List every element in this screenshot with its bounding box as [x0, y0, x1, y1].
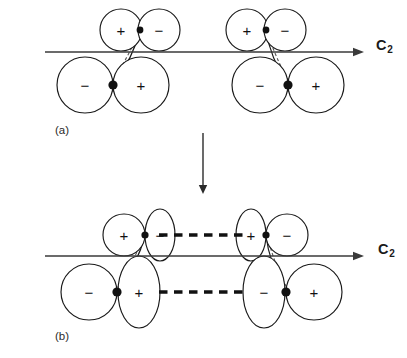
atom-node-lower [108, 80, 117, 89]
transform-arrow-head [199, 185, 207, 194]
c2-axis-label-subscript: 2 [389, 248, 395, 259]
lower-right-lobe-sign: + [312, 77, 321, 94]
panel-caption-a: (a) [55, 124, 69, 136]
lower-left-lobe-sign: − [81, 77, 90, 94]
upper-left-lobe-sign: + [247, 227, 256, 244]
panel-b-orbital-lobes [61, 209, 342, 328]
upper-right-lobe-sign: − [283, 227, 292, 244]
c2-axis-arrowhead [353, 48, 364, 56]
panel-b-c2-axis [45, 252, 364, 260]
panel-a-c2-axis [45, 48, 364, 56]
atom-node-upper [141, 231, 148, 238]
lower-left-lobe-sign: − [85, 284, 94, 301]
transform-arrow-group [199, 133, 207, 194]
c2-axis-label-base: C [378, 241, 389, 257]
atom-node-lower [112, 287, 121, 296]
lower-right-lobe-sign: + [135, 284, 144, 301]
panel-a: +−−++−−+ [45, 9, 364, 113]
panel-a-orbital-lobes [57, 9, 344, 113]
panel-b: +−−++−−+ [45, 209, 364, 328]
upper-left-lobe-sign: + [243, 22, 252, 39]
c2-axis-label-a: C2 [376, 37, 392, 53]
c2-axis-label-base: C [376, 37, 387, 53]
atom-node-upper [262, 231, 269, 238]
upper-left-lobe-sign: + [120, 227, 129, 244]
c2-axis-arrowhead [353, 252, 364, 260]
upper-right-lobe-sign: − [155, 22, 164, 39]
orbital-diagram-canvas: +−−++−−+ +−−++−−+ [0, 0, 407, 358]
lower-right-lobe-sign: + [310, 284, 319, 301]
lower-right-lobe-sign: + [137, 77, 146, 94]
upper-right-lobe-sign: − [156, 227, 165, 244]
orbital-overlap-figure: +−−++−−+ +−−++−−+ C [0, 0, 407, 358]
panel-caption-b: (b) [55, 330, 69, 342]
lower-left-lobe-sign: − [256, 77, 265, 94]
c2-axis-label-subscript: 2 [387, 44, 393, 55]
upper-left-lobe-sign: + [117, 22, 126, 39]
lower-left-lobe-sign: − [260, 284, 269, 301]
atom-node-lower [283, 80, 292, 89]
upper-right-lobe-sign: − [281, 22, 290, 39]
atom-node-upper [263, 27, 270, 34]
atom-node-lower [281, 287, 290, 296]
c2-axis-label-b: C2 [378, 241, 394, 257]
atom-node-upper [137, 27, 144, 34]
